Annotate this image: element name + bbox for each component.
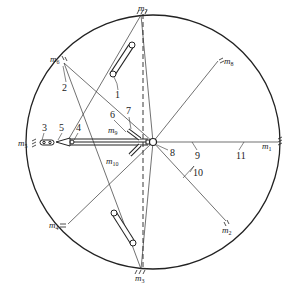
part-labels: 1 2 3 4 5 6 7 8 9 10 11 xyxy=(42,82,246,178)
part-10: 10 xyxy=(193,167,203,178)
label-m10: m10 xyxy=(106,156,119,167)
part-8: 8 xyxy=(170,147,175,158)
part-5: 5 xyxy=(59,122,64,133)
part-3: 3 xyxy=(42,122,47,133)
balancing-mechanism-diagram: m1 m2 m3 m4 m5 m6 m7 m8 m9 m10 1 2 3 4 5… xyxy=(0,0,282,283)
label-m6: m6 xyxy=(50,54,60,65)
part-9: 9 xyxy=(195,150,200,161)
spring-m9 xyxy=(128,130,140,139)
part-2: 2 xyxy=(62,82,67,93)
label-m7: m7 xyxy=(138,3,148,14)
part-1: 1 xyxy=(115,89,120,100)
part-4: 4 xyxy=(76,122,81,133)
part-11: 11 xyxy=(236,150,246,161)
label-m8: m8 xyxy=(224,56,234,67)
horizontal-rod xyxy=(40,138,151,146)
part-7: 7 xyxy=(126,105,131,116)
label-m2: m2 xyxy=(222,225,232,236)
lower-rod xyxy=(111,210,136,246)
label-m1: m1 xyxy=(262,141,272,152)
part-6: 6 xyxy=(110,109,115,120)
center-pivot xyxy=(150,139,157,146)
spring-m10 xyxy=(130,145,140,155)
label-m9: m9 xyxy=(108,125,118,136)
label-m4: m4 xyxy=(49,220,59,231)
label-m3: m3 xyxy=(135,273,145,283)
